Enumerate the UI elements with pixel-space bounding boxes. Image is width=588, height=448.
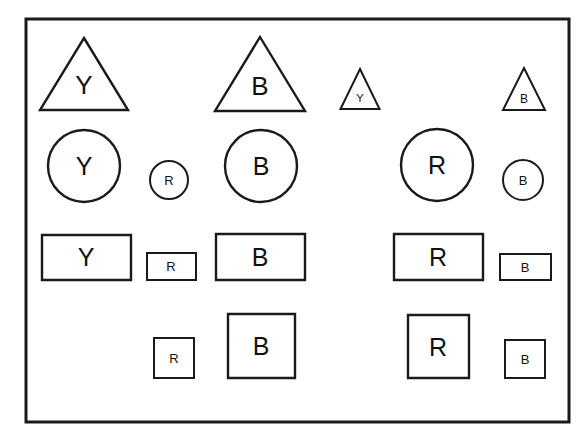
shape-label-circle-small-b: B — [519, 173, 528, 188]
shape-label-circle-large-r: R — [428, 151, 446, 179]
shape-circle-large-r: R — [401, 129, 473, 201]
shape-circle-small-r: R — [150, 161, 188, 199]
shape-square-large-b: B — [228, 314, 295, 378]
shape-label-triangle-small-y: Y — [356, 92, 364, 104]
shape-label-circle-small-r: R — [164, 173, 173, 188]
shape-layer: YBYBYRBRBYRBRBRBRB — [0, 0, 588, 448]
shape-label-square-large-r: R — [429, 333, 447, 361]
shape-square-small-r: R — [154, 338, 194, 378]
shape-rect-large-b: B — [216, 234, 305, 280]
shape-label-rect-small-b: B — [521, 260, 530, 275]
shape-label-circle-large-b: B — [253, 152, 270, 180]
shape-rect-large-r: R — [394, 234, 483, 280]
shape-triangle-small-y: Y — [341, 69, 380, 109]
shape-triangle-small-b: B — [503, 68, 545, 110]
shape-label-rect-small-r: R — [166, 259, 175, 274]
shape-square-large-r: R — [408, 315, 469, 378]
shape-label-square-small-b: B — [521, 352, 530, 367]
shape-triangle-large-b: B — [215, 37, 305, 111]
shape-circle-large-b: B — [225, 130, 297, 202]
shape-rect-small-b: B — [500, 254, 551, 280]
shape-label-triangle-large-y: Y — [75, 70, 92, 100]
shape-label-rect-large-b: B — [252, 243, 269, 271]
shape-rect-small-r: R — [147, 253, 196, 280]
shape-stimulus-canvas: YBYBYRBRBYRBRBRBRB — [0, 0, 588, 448]
shape-circle-small-b: B — [503, 160, 543, 200]
shape-circle-large-y: Y — [48, 130, 120, 202]
shape-label-square-large-b: B — [253, 332, 270, 360]
shape-label-triangle-large-b: B — [251, 71, 268, 101]
shape-label-circle-large-y: Y — [76, 152, 93, 180]
shape-square-small-b: B — [505, 340, 545, 378]
shape-label-square-small-r: R — [169, 351, 178, 366]
shape-label-rect-large-y: Y — [78, 243, 95, 271]
shape-label-rect-large-r: R — [429, 243, 447, 271]
shape-rect-large-y: Y — [42, 235, 131, 280]
shape-triangle-large-y: Y — [40, 38, 128, 110]
shape-label-triangle-small-b: B — [520, 92, 528, 106]
